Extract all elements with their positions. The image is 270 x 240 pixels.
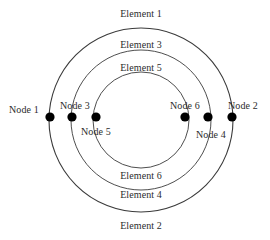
node-marker-node-3[interactable] xyxy=(67,112,76,121)
node-label-node-6: Node 6 xyxy=(170,100,200,111)
node-label-node-3: Node 3 xyxy=(60,100,90,111)
diagram-canvas: Element 1 Element 3 Element 5 Element 6 … xyxy=(0,0,270,240)
node-marker-node-6[interactable] xyxy=(180,112,189,121)
node-marker-node-5[interactable] xyxy=(91,112,100,121)
element-label-element-6: Element 6 xyxy=(120,170,162,181)
node-label-node-1: Node 1 xyxy=(9,104,39,115)
element-label-element-2: Element 2 xyxy=(120,220,162,231)
node-marker-node-2[interactable] xyxy=(227,112,236,121)
node-marker-node-1[interactable] xyxy=(45,112,54,121)
concentric-rings-graphic xyxy=(0,0,270,240)
element-label-element-5: Element 5 xyxy=(120,62,162,73)
node-label-node-4: Node 4 xyxy=(196,129,226,140)
element-label-element-1: Element 1 xyxy=(120,8,162,19)
element-label-element-4: Element 4 xyxy=(120,189,162,200)
node-label-node-5: Node 5 xyxy=(81,126,111,137)
inner-circle xyxy=(93,72,189,168)
element-label-element-3: Element 3 xyxy=(120,39,162,50)
node-label-node-2: Node 2 xyxy=(228,100,258,111)
node-marker-node-4[interactable] xyxy=(203,112,212,121)
